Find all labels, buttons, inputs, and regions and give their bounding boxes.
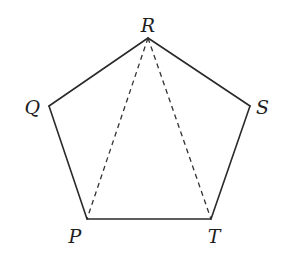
- vertex-label-p: P: [68, 225, 83, 247]
- vertex-label-q: Q: [24, 96, 40, 118]
- diagonal-rt: [148, 38, 211, 219]
- vertex-label-s: S: [256, 96, 269, 118]
- edge-st: [211, 106, 250, 219]
- vertex-labels: R S T P Q: [24, 14, 269, 247]
- edge-pq: [49, 106, 87, 219]
- dashed-diagonals: [87, 38, 211, 219]
- vertex-label-t: T: [208, 225, 222, 247]
- vertex-label-r: R: [140, 14, 155, 36]
- edge-rs: [148, 38, 250, 106]
- diagonal-rp: [87, 38, 148, 219]
- pentagon-edges: [49, 38, 250, 219]
- pentagon-diagram: R S T P Q: [0, 0, 283, 264]
- edge-qr: [49, 38, 148, 106]
